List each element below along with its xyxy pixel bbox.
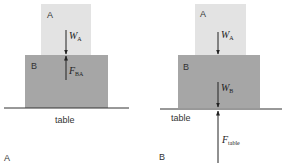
panel-a-label: A bbox=[4, 153, 10, 163]
panel-b: A B WA WB Ftable table B bbox=[159, 4, 282, 163]
table-label: table bbox=[55, 115, 75, 125]
free-body-diagram: A B WA FBA table A A B WA WB Ftable tabl… bbox=[0, 0, 282, 167]
block-b-label: B bbox=[183, 62, 189, 72]
block-a-label: A bbox=[200, 9, 206, 19]
block-b-label: B bbox=[31, 61, 37, 71]
block-a-label: A bbox=[47, 10, 53, 20]
panel-a: A B WA FBA table A bbox=[4, 4, 129, 163]
block-b bbox=[178, 55, 260, 108]
table-force-label: Ftable bbox=[221, 134, 240, 146]
table-label: table bbox=[171, 113, 191, 123]
panel-b-label: B bbox=[159, 152, 165, 162]
